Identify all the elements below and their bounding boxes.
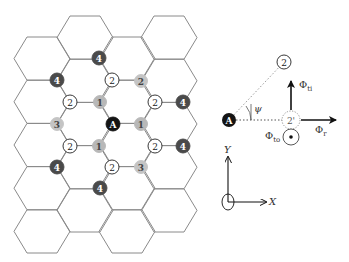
svg-text:1: 1 bbox=[97, 98, 103, 108]
site-2-marker: 2 bbox=[277, 55, 291, 69]
svg-text:4: 4 bbox=[96, 54, 102, 64]
svg-text:2: 2 bbox=[152, 98, 158, 108]
lattice-site-1: 1 bbox=[93, 140, 106, 153]
svg-text:2: 2 bbox=[67, 142, 73, 152]
x-axis-label: X bbox=[268, 196, 277, 207]
lattice-site-4: 4 bbox=[92, 51, 106, 65]
svg-text:2: 2 bbox=[281, 58, 287, 68]
lattice-site-1: 1 bbox=[94, 96, 107, 109]
lattice-site-4: 4 bbox=[93, 181, 107, 195]
svg-text:2: 2 bbox=[67, 98, 73, 108]
svg-text:4: 4 bbox=[180, 142, 186, 152]
phi-r-label: Φr bbox=[315, 124, 327, 138]
lattice-site-2: 2 bbox=[63, 139, 77, 153]
coordinate-axes: Y X bbox=[222, 144, 277, 210]
psi-label: ψ bbox=[254, 103, 262, 114]
hexagon-cell bbox=[99, 210, 155, 253]
svg-text:2': 2' bbox=[287, 116, 295, 126]
hexagon-cell bbox=[14, 210, 70, 253]
bond-geometry-diagram: ψ A 2 2' Φti Φr bbox=[222, 55, 336, 145]
svg-text:4: 4 bbox=[54, 76, 60, 86]
svg-text:1: 1 bbox=[138, 120, 144, 130]
lattice-site-4: 4 bbox=[176, 139, 190, 153]
svg-text:2: 2 bbox=[138, 77, 144, 87]
lattice-site-A: A bbox=[106, 117, 120, 131]
svg-text:4: 4 bbox=[180, 98, 186, 108]
svg-text:A: A bbox=[225, 116, 234, 126]
psi-angle-arc bbox=[246, 106, 251, 120]
phi-to-out-of-plane-marker bbox=[283, 129, 299, 145]
svg-text:4: 4 bbox=[54, 163, 60, 173]
lattice-site-3: 3 bbox=[51, 118, 64, 131]
hexagon-cell bbox=[141, 146, 197, 189]
hexagonal-lattice bbox=[14, 16, 197, 253]
svg-text:3: 3 bbox=[54, 120, 60, 130]
lattice-sites: 442221243A121244234 bbox=[50, 51, 190, 195]
hexagon-cell bbox=[99, 37, 155, 80]
hexagon-cell bbox=[141, 189, 197, 232]
phi-to-label: Φto bbox=[265, 130, 280, 144]
y-axis-label: Y bbox=[224, 144, 232, 155]
lattice-site-2: 2 bbox=[148, 95, 162, 109]
lattice-site-3: 3 bbox=[135, 161, 148, 174]
svg-text:3: 3 bbox=[138, 163, 144, 173]
phi-ti-label: Φti bbox=[299, 79, 313, 93]
svg-text:A: A bbox=[109, 120, 118, 130]
lattice-site-4: 4 bbox=[176, 95, 190, 109]
hexagon-cell bbox=[141, 16, 197, 59]
hexagon-cell bbox=[99, 123, 155, 166]
hexagon-cell bbox=[99, 80, 155, 123]
lattice-site-4: 4 bbox=[50, 160, 64, 174]
svg-text:1: 1 bbox=[96, 142, 102, 152]
lattice-site-2: 2 bbox=[148, 139, 162, 153]
hexagon-cell bbox=[141, 102, 197, 145]
lattice-site-2: 2 bbox=[105, 73, 119, 87]
lattice-site-2: 2 bbox=[105, 160, 119, 174]
site-a-marker: A bbox=[222, 113, 236, 127]
svg-text:4: 4 bbox=[97, 184, 103, 194]
svg-text:2: 2 bbox=[109, 163, 115, 173]
lattice-site-1: 1 bbox=[135, 118, 148, 131]
hexagon-cell bbox=[141, 59, 197, 102]
site-2-prime-marker: 2' bbox=[282, 111, 300, 129]
lattice-site-2-grey: 2 bbox=[135, 75, 148, 88]
svg-text:2: 2 bbox=[109, 76, 115, 86]
svg-text:2: 2 bbox=[152, 142, 158, 152]
lattice-site-4: 4 bbox=[50, 73, 64, 87]
hexagon-cell bbox=[57, 16, 113, 59]
lattice-figure: 442221243A121244234 ψ A 2 2' Φti bbox=[0, 0, 349, 262]
lattice-site-2: 2 bbox=[63, 95, 77, 109]
